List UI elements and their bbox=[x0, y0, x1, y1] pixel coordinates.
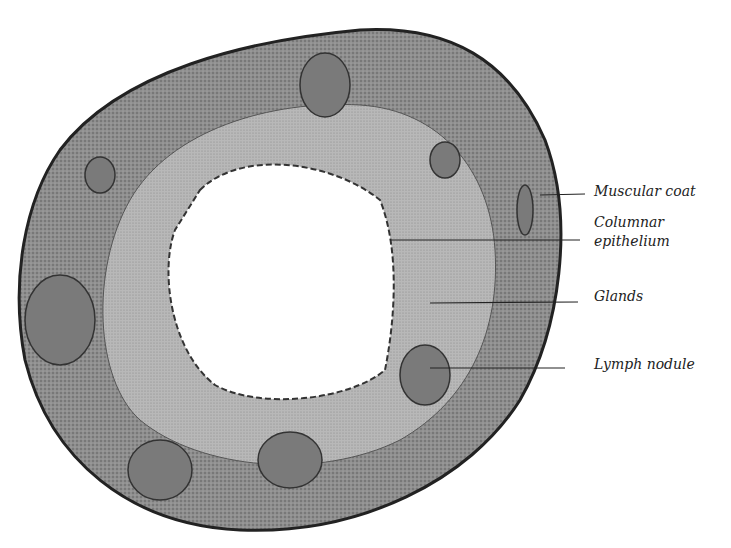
label-lymph-nodule: Lymph nodule bbox=[594, 356, 695, 373]
label-muscular-coat: Muscular coat bbox=[594, 183, 696, 200]
label-glands: Glands bbox=[594, 288, 643, 305]
label-columnar-epithelium-line2: epithelium bbox=[594, 233, 670, 250]
label-columnar-epithelium-line1: Columnar bbox=[594, 214, 664, 231]
lumen bbox=[168, 165, 393, 400]
appendix-illustration bbox=[0, 0, 731, 548]
